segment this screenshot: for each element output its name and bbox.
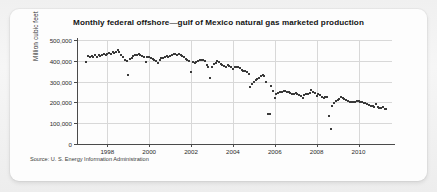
x-axis-line xyxy=(77,144,395,145)
plot-area: 0100,000200,000300,000400,000500,000 199… xyxy=(78,40,392,144)
chart-title: Monthly federal offshore—gulf of Mexico … xyxy=(10,18,427,27)
data-point xyxy=(145,61,147,63)
x-axis-tick xyxy=(191,144,192,147)
data-point xyxy=(118,51,120,53)
data-point xyxy=(309,92,311,94)
x-axis-tick-label: 1998 xyxy=(100,148,114,155)
x-axis-tick-label: 2002 xyxy=(184,148,198,155)
y-axis-tick-label: 300,000 xyxy=(50,78,72,85)
y-axis-tick xyxy=(74,40,78,41)
data-point xyxy=(126,60,128,62)
data-point xyxy=(274,97,276,99)
y-axis-tick xyxy=(74,144,78,145)
gridline-horizontal xyxy=(78,40,392,41)
data-point xyxy=(375,103,377,105)
gridline-vertical xyxy=(317,40,318,144)
data-point xyxy=(253,81,255,83)
y-axis-line xyxy=(77,38,78,145)
data-point xyxy=(272,90,274,92)
x-axis-tick-label: 2008 xyxy=(310,148,324,155)
x-axis-tick xyxy=(107,144,108,147)
data-point xyxy=(331,105,333,107)
data-point xyxy=(143,56,145,58)
gridline-vertical xyxy=(107,40,108,144)
data-point xyxy=(326,96,328,98)
data-point xyxy=(206,64,208,66)
data-point xyxy=(310,89,312,91)
data-point xyxy=(333,102,335,104)
data-point xyxy=(263,75,265,77)
data-point xyxy=(157,62,159,64)
x-axis-tick-label: 2010 xyxy=(352,148,366,155)
y-axis-title: Million cubic feet xyxy=(32,11,39,61)
data-point xyxy=(270,85,272,87)
y-axis-tick xyxy=(74,82,78,83)
data-point xyxy=(209,77,211,79)
y-axis-tick-label: 100,000 xyxy=(50,120,72,127)
data-point xyxy=(385,108,387,110)
gridline-horizontal xyxy=(78,123,392,124)
data-point xyxy=(265,81,267,83)
y-axis-tick xyxy=(74,61,78,62)
data-point xyxy=(330,128,332,130)
y-axis-tick xyxy=(74,123,78,124)
data-point xyxy=(248,73,250,75)
data-point xyxy=(302,97,304,99)
data-point xyxy=(211,66,213,68)
data-point xyxy=(373,106,375,108)
data-point xyxy=(249,86,251,88)
x-axis-tick-label: 2006 xyxy=(268,148,282,155)
y-axis-tick-label: 0 xyxy=(69,141,72,148)
x-axis-tick-label: 2000 xyxy=(142,148,156,155)
x-axis-tick xyxy=(149,144,150,147)
gridline-vertical xyxy=(275,40,276,144)
chart-card: Monthly federal offshore—gulf of Mexico … xyxy=(10,9,427,181)
data-point xyxy=(328,115,330,117)
data-point xyxy=(204,60,206,62)
data-point xyxy=(190,71,192,73)
x-axis-tick xyxy=(317,144,318,147)
x-axis-tick xyxy=(233,144,234,147)
gridline-horizontal xyxy=(78,102,392,103)
gridline-vertical xyxy=(359,40,360,144)
data-point xyxy=(127,74,129,76)
data-point xyxy=(269,113,271,115)
chart-card-inner: Monthly federal offshore—gulf of Mexico … xyxy=(10,9,427,181)
gridline-horizontal xyxy=(78,82,392,83)
gridline-vertical xyxy=(191,40,192,144)
y-axis-tick xyxy=(74,102,78,103)
x-axis-tick xyxy=(359,144,360,147)
y-axis-tick-label: 200,000 xyxy=(50,99,72,106)
y-axis-tick-label: 400,000 xyxy=(50,57,72,64)
data-point xyxy=(120,54,122,56)
data-point xyxy=(188,60,190,62)
y-axis-tick-label: 500,000 xyxy=(50,37,72,44)
x-axis-tick xyxy=(275,144,276,147)
data-point xyxy=(207,66,209,68)
screenshot-root: Monthly federal offshore—gulf of Mexico … xyxy=(0,0,437,192)
data-point xyxy=(85,61,87,63)
x-axis-tick-label: 2004 xyxy=(226,148,240,155)
data-point xyxy=(131,57,133,59)
source-note: Source: U. S. Energy Information Adminis… xyxy=(30,156,149,162)
gridline-vertical xyxy=(233,40,234,144)
